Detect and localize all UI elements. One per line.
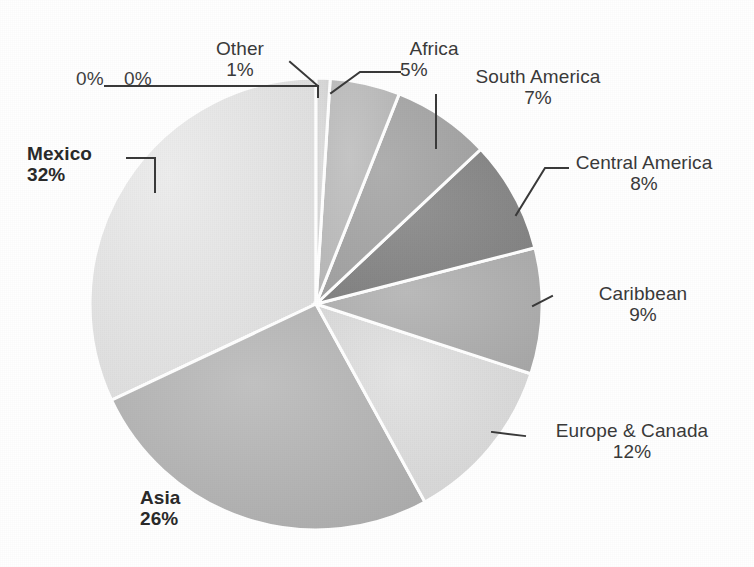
label-central-america-value: 8% bbox=[544, 173, 744, 194]
label-south-america-name: South America bbox=[476, 66, 601, 87]
label-africa-name: Africa bbox=[409, 38, 458, 59]
label-mexico-value: 32% bbox=[27, 164, 92, 185]
label-asia-name: Asia bbox=[140, 487, 181, 508]
label-europe-canada: Europe & Canada 12% bbox=[526, 420, 738, 463]
label-central-america-name: Central America bbox=[576, 152, 713, 173]
label-caribbean-value: 9% bbox=[558, 304, 728, 325]
label-other: Other 1% bbox=[194, 38, 286, 81]
label-south-america: South America 7% bbox=[444, 66, 632, 109]
label-mexico: Mexico 32% bbox=[27, 143, 92, 186]
label-mexico-name: Mexico bbox=[27, 143, 92, 164]
label-other-value: 1% bbox=[194, 59, 286, 80]
label-caribbean-name: Caribbean bbox=[599, 283, 688, 304]
label-europe-canada-value: 12% bbox=[526, 441, 738, 462]
label-zero-a: 0% bbox=[76, 68, 104, 89]
label-other-name: Other bbox=[216, 38, 264, 59]
label-zero-b: 0% bbox=[124, 68, 152, 89]
label-central-america: Central America 8% bbox=[544, 152, 744, 195]
label-caribbean: Caribbean 9% bbox=[558, 283, 728, 326]
pie-slices bbox=[90, 78, 542, 530]
label-asia-value: 26% bbox=[140, 508, 181, 529]
label-europe-canada-name: Europe & Canada bbox=[556, 420, 709, 441]
label-south-america-value: 7% bbox=[444, 87, 632, 108]
label-asia: Asia 26% bbox=[140, 487, 181, 530]
pie-chart-figure: 0% 0% Other 1% Africa 5% South America 7… bbox=[0, 0, 754, 567]
